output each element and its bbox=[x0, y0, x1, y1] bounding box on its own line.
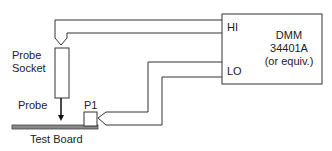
probe-socket-label-line1: Probe bbox=[12, 49, 41, 61]
dmm-label-line3: (or equiv.) bbox=[252, 55, 326, 67]
p1-label: P1 bbox=[84, 99, 97, 111]
dmm-label-line2: 34401A bbox=[252, 42, 326, 54]
lo-wire-outer bbox=[98, 62, 222, 125]
test-board-label: Test Board bbox=[30, 133, 83, 145]
wiring-diagram bbox=[0, 0, 332, 151]
probe-socket-label-line2: Socket bbox=[12, 62, 46, 74]
dmm-label-line1: DMM bbox=[252, 29, 326, 41]
hi-wire-outer bbox=[55, 20, 222, 45]
lo-terminal-label: LO bbox=[227, 65, 242, 77]
probe-socket bbox=[55, 48, 69, 98]
p1-pad bbox=[84, 112, 97, 126]
hi-terminal-label: HI bbox=[227, 21, 238, 33]
probe-label: Probe bbox=[18, 99, 47, 111]
probe-arrow-icon bbox=[58, 115, 64, 121]
